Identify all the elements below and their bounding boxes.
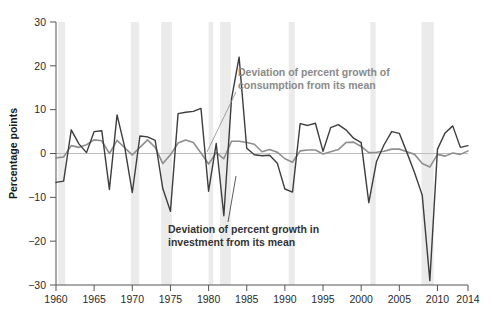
- y-tick-label: −30: [28, 279, 46, 291]
- deviation-line-chart: 3020100−10−20−30 19601965197019751980198…: [0, 0, 492, 324]
- chart-container: 3020100−10−20−30 19601965197019751980198…: [0, 0, 492, 324]
- x-tick-label: 2010: [426, 293, 450, 305]
- x-tick-label: 1990: [273, 293, 297, 305]
- y-tick-label: 30: [34, 16, 46, 28]
- x-tick-label: 1980: [197, 293, 221, 305]
- x-tick-label: 1965: [82, 293, 106, 305]
- y-axis-title: Percentage points: [7, 108, 19, 199]
- x-tick-label: 1960: [44, 293, 68, 305]
- annotation-label-line1: Deviation of percent growth in: [168, 223, 319, 235]
- annotation-label-line1: Deviation of percent growth of: [238, 66, 390, 78]
- x-tick-label: 1995: [311, 293, 335, 305]
- annotation-label-line2: consumption from its mean: [238, 79, 376, 91]
- y-tick-label: 20: [34, 60, 46, 72]
- x-tick-label: 2000: [350, 293, 374, 305]
- x-tick-label: 2014: [456, 293, 480, 305]
- y-tick-label: 0: [40, 147, 46, 159]
- x-tick-label: 2005: [388, 293, 412, 305]
- x-tick-label: 1985: [235, 293, 259, 305]
- x-tick-label: 1970: [121, 293, 145, 305]
- annotation-label-line2: investment from its mean: [168, 236, 295, 248]
- y-tick-label: −20: [28, 235, 46, 247]
- x-tick-label: 1975: [159, 293, 183, 305]
- y-tick-label: 10: [34, 103, 46, 115]
- y-tick-label: −10: [28, 191, 46, 203]
- chart-background: [0, 0, 492, 324]
